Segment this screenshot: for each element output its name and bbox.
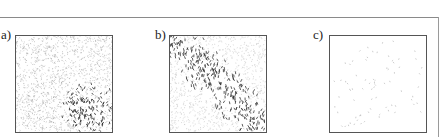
figure-frame-top: [0, 17, 438, 18]
panel-c-plot: [329, 35, 427, 133]
vector-field-b: [170, 36, 266, 132]
panel-b-plot: [169, 35, 267, 133]
panel-a-label: a): [1, 28, 11, 41]
vector-field-c: [330, 36, 426, 132]
vector-field-a: [16, 36, 112, 132]
panel-c-label: c): [313, 28, 323, 41]
figure-frame-right: [438, 17, 439, 137]
panel-b-label: b): [155, 28, 166, 41]
panel-a-plot: [15, 35, 113, 133]
